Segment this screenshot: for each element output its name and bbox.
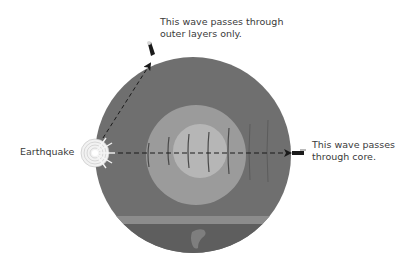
outer-wave-label-line1: This wave passes through (160, 16, 283, 28)
earth-sphere (90, 57, 300, 264)
outer-wave-label-line2: outer layers only. (160, 28, 283, 40)
seismometer-icon (292, 149, 306, 155)
outer-wave-label: This wave passes through outer layers on… (160, 16, 283, 40)
seismometer-icon (147, 41, 155, 56)
core-wave-label: This wave passes through core. (312, 139, 395, 163)
core-wave-label-line2: through core. (312, 151, 395, 163)
crust-band (90, 216, 300, 224)
earthquake-label: Earthquake (20, 146, 74, 158)
core-wave-label-line1: This wave passes (312, 139, 395, 151)
earth-cross-section-diagram (0, 0, 405, 270)
inner-core-layer (173, 124, 227, 178)
